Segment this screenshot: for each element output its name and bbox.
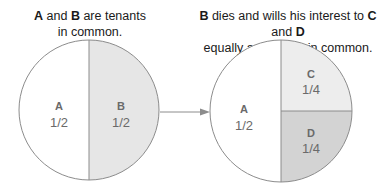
ownership-diagram: A 1/2 B 1/2 A 1/2 C 1/4 D 1/4 bbox=[0, 0, 387, 190]
pie-before: A 1/2 B 1/2 bbox=[19, 40, 159, 180]
share-a-before bbox=[19, 40, 89, 180]
label-fraction-d: 1/4 bbox=[302, 141, 320, 156]
pie-after: A 1/2 C 1/4 D 1/4 bbox=[210, 40, 352, 182]
label-fraction-b: 1/2 bbox=[112, 115, 130, 130]
label-owner-b: B bbox=[117, 100, 125, 112]
label-owner-d: D bbox=[307, 127, 315, 139]
label-owner-c: C bbox=[307, 68, 315, 80]
arrow-right-icon bbox=[160, 109, 210, 116]
share-c-after bbox=[281, 40, 352, 111]
label-fraction-a: 1/2 bbox=[50, 115, 68, 130]
label-fraction-a: 1/2 bbox=[235, 118, 253, 133]
label-owner-a: A bbox=[55, 100, 63, 112]
label-owner-a: A bbox=[240, 103, 248, 115]
label-fraction-c: 1/4 bbox=[302, 82, 320, 97]
